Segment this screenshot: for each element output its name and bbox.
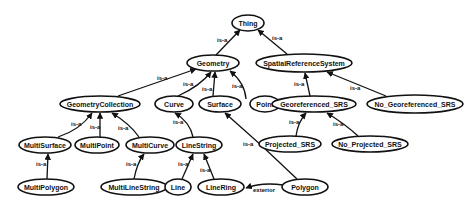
edge-label: is-a xyxy=(126,161,137,167)
node-multicurve: MultiCurve xyxy=(126,137,174,153)
node-thing: Thing xyxy=(232,15,264,31)
node-label: SpatialReferenceSystem xyxy=(263,60,345,68)
edge-label: is-a xyxy=(217,37,228,43)
edge-point-to-geometry: is-a xyxy=(230,71,246,99)
node-multipolygon: MultiPolygon xyxy=(18,179,74,195)
edge-spatialreferencesystem-to-thing: is-a xyxy=(258,30,287,54)
node-label: Surface xyxy=(207,101,233,108)
edge-label: is-a xyxy=(118,125,129,131)
node-label: Georeferenced_SRS xyxy=(280,101,348,108)
edge-georeferenced_srs-to-spatialreferencesystem: is-a xyxy=(294,73,310,96)
node-label: Projected_SRS xyxy=(265,141,316,149)
node-projected-srs: Projected_SRS xyxy=(259,136,321,152)
node-label: MultiSurface xyxy=(24,142,66,149)
edge-linestring-to-curve: is-a xyxy=(173,113,193,137)
node-linering: LineRing xyxy=(198,179,244,195)
node-line: Line xyxy=(165,179,191,195)
edge-label: is-a xyxy=(178,161,189,167)
node-geometrycollection: GeometryCollection xyxy=(60,96,140,112)
edge-label: is-a xyxy=(333,121,344,127)
edge-linering-to-linestring: is-a xyxy=(200,154,214,179)
node-label: MultiLineString xyxy=(109,184,160,192)
edge-label: is-a xyxy=(71,121,82,127)
node-label: No_Georeferenced_SRS xyxy=(375,101,456,108)
ontology-diagram: is-ais-ais-ais-ais-ais-ais-ais-ais-ais-a… xyxy=(0,0,473,209)
edge-multilinestring-to-multicurve: is-a xyxy=(126,154,144,179)
node-spatialreferencesystem: SpatialReferenceSystem xyxy=(256,54,352,72)
edge-label: is-a xyxy=(183,81,194,87)
node-label: MultiPoint xyxy=(80,142,114,149)
edge-label: is-a xyxy=(36,161,47,167)
node-no-projected-srs: No_Projected_SRS xyxy=(332,136,408,152)
node-no-georeferenced-srs: No_Georeferenced_SRS xyxy=(367,95,463,113)
edge-label: is-a xyxy=(157,75,168,81)
edge-multipoint-to-geometrycollection: is-a xyxy=(90,113,101,137)
edge-polygon-to-linering: exterior xyxy=(246,184,283,193)
node-label: LineString xyxy=(182,142,217,150)
node-surface: Surface xyxy=(199,96,241,112)
edge-label: is-a xyxy=(232,83,243,89)
edge-label: is-a xyxy=(202,86,213,92)
node-label: Curve xyxy=(164,101,184,108)
edge-label: is-a xyxy=(350,85,361,91)
edge-label: is-a xyxy=(90,124,101,130)
node-label: No_Projected_SRS xyxy=(338,141,402,149)
edge-arrow xyxy=(305,73,310,96)
edge-curve-to-geometry: is-a xyxy=(178,72,211,96)
node-label: MultiPolygon xyxy=(24,184,68,192)
edge-arrow xyxy=(327,72,386,96)
edge-label: exterior xyxy=(253,187,276,193)
edge-multicurve-to-geometrycollection: is-a xyxy=(112,113,139,137)
node-georeferenced-srs: Georeferenced_SRS xyxy=(272,96,356,112)
edge-arrow xyxy=(47,154,48,179)
edge-arrow xyxy=(258,30,287,54)
edge-multisurface-to-geometrycollection: is-a xyxy=(58,113,92,137)
node-multipoint: MultiPoint xyxy=(75,137,119,153)
edge-arrow xyxy=(213,72,215,96)
node-label: Thing xyxy=(238,20,257,28)
edge-arrow xyxy=(175,113,193,137)
nodes-layer: ThingGeometrySpatialReferenceSystemGeome… xyxy=(18,15,463,195)
node-label: LineRing xyxy=(206,184,236,192)
node-label: MultiCurve xyxy=(132,142,168,149)
edge-geometry-to-thing: is-a xyxy=(216,30,240,55)
node-linestring: LineString xyxy=(176,137,222,153)
node-label: Geometry xyxy=(197,60,230,68)
edge-label: is-a xyxy=(200,167,211,173)
edge-no_projected_srs-to-georeferenced_srs: is-a xyxy=(327,113,358,136)
edge-label: is-a xyxy=(289,119,300,125)
edge-multipolygon-to-multisurface: is-a xyxy=(36,154,48,179)
edge-label: is-a xyxy=(272,35,283,41)
edge-label: is-a xyxy=(173,119,184,125)
node-polygon: Polygon xyxy=(282,179,328,195)
edge-label: is-a xyxy=(243,141,254,147)
node-geometry: Geometry xyxy=(187,55,239,71)
edge-projected_srs-to-georeferenced_srs: is-a xyxy=(289,113,306,136)
node-label: Polygon xyxy=(291,184,319,192)
node-multisurface: MultiSurface xyxy=(19,137,71,153)
node-label: Line xyxy=(171,184,185,191)
edge-no_georeferenced_srs-to-spatialreferencesystem: is-a xyxy=(327,72,386,96)
node-label: GeometryCollection xyxy=(67,101,134,109)
node-multilinestring: MultiLineString xyxy=(101,179,167,195)
edge-label: is-a xyxy=(294,81,305,87)
edge-line-to-linestring: is-a xyxy=(178,154,193,179)
node-curve: Curve xyxy=(155,96,193,112)
